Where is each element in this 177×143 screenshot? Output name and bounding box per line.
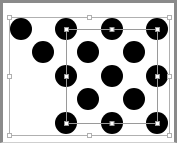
resize-handle[interactable] (88, 134, 92, 138)
outer-selection-box (10, 18, 170, 136)
resize-handle[interactable] (110, 28, 114, 32)
circle-shape[interactable] (123, 41, 145, 63)
drawing-canvas[interactable] (0, 0, 177, 143)
circle-shape[interactable] (10, 18, 32, 40)
circle-shape[interactable] (101, 65, 123, 87)
resize-handle[interactable] (65, 122, 69, 126)
resize-handle[interactable] (8, 134, 12, 138)
resize-handle[interactable] (110, 122, 114, 126)
resize-handle[interactable] (156, 28, 160, 32)
resize-handle[interactable] (65, 75, 69, 79)
resize-handle[interactable] (8, 16, 12, 20)
circle-shape[interactable] (32, 41, 54, 63)
resize-handle[interactable] (8, 75, 12, 79)
circle-shape[interactable] (77, 41, 99, 63)
resize-handle[interactable] (156, 122, 160, 126)
circle-shape[interactable] (123, 88, 145, 110)
resize-handle[interactable] (168, 134, 172, 138)
resize-handle[interactable] (168, 16, 172, 20)
circle-shape[interactable] (77, 88, 99, 110)
resize-handle[interactable] (156, 75, 160, 79)
resize-handle[interactable] (168, 75, 172, 79)
resize-handle[interactable] (88, 16, 92, 20)
resize-handle[interactable] (65, 28, 69, 32)
